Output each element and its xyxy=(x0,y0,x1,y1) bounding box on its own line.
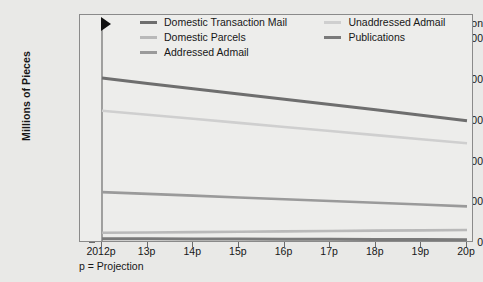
x-tick-mark xyxy=(192,242,193,247)
legend-label: Unaddressed Admail xyxy=(348,16,445,29)
chart-legend: Domestic Transaction MailUnaddressed Adm… xyxy=(140,16,470,61)
x-tick-mark xyxy=(466,242,467,247)
legend-label: Addressed Admail xyxy=(164,46,249,59)
y-tick-mark xyxy=(89,242,95,243)
legend-swatch-icon xyxy=(140,36,157,39)
y-axis-title: Millions of Pieces xyxy=(20,26,32,166)
x-tick-mark xyxy=(375,242,376,247)
legend-label: Domestic Parcels xyxy=(164,31,246,44)
legend-swatch-icon xyxy=(324,21,341,24)
legend-item-domestic-parcels[interactable]: Domestic Parcels xyxy=(140,31,324,44)
x-tick-mark xyxy=(420,242,421,247)
legend-item-addressed-admail[interactable]: Addressed Admail xyxy=(140,46,330,59)
legend-item-unaddressed-admail[interactable]: Unaddressed Admail xyxy=(324,16,470,29)
legend-swatch-icon xyxy=(140,21,157,24)
legend-swatch-icon xyxy=(140,51,157,54)
legend-item-publications[interactable]: Publications xyxy=(324,31,470,44)
x-tick-mark xyxy=(147,242,148,247)
x-tick-mark xyxy=(238,242,239,247)
legend-label: Domestic Transaction Mail xyxy=(164,16,287,29)
legend-swatch-icon xyxy=(324,36,341,39)
chart-root: Millions of Pieces 01,0002,0003,0004,000… xyxy=(0,0,483,282)
legend-row: Domestic Transaction MailUnaddressed Adm… xyxy=(140,16,470,31)
x-tick-mark xyxy=(329,242,330,247)
chart-footnote: p = Projection xyxy=(79,260,144,272)
legend-row: Domestic ParcelsPublications xyxy=(140,31,470,46)
series-line-domestic-parcels xyxy=(102,230,467,233)
x-tick-mark xyxy=(101,242,102,247)
series-line-addressed-admail xyxy=(102,192,467,206)
legend-label: Publications xyxy=(348,31,405,44)
projection-arrow-icon xyxy=(101,17,111,31)
series-line-publications xyxy=(102,239,467,240)
legend-item-domestic-transaction-mail[interactable]: Domestic Transaction Mail xyxy=(140,16,324,29)
x-tick-mark xyxy=(284,242,285,247)
legend-row: Addressed Admail xyxy=(140,46,470,61)
